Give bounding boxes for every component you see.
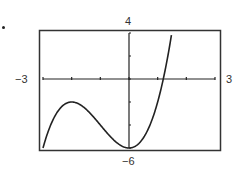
viewing-window-frame [40,31,221,151]
function-curve [43,35,171,148]
function-plot [0,0,244,179]
xmax-label: 3 [226,74,232,85]
axes [43,33,215,148]
ymin-label: −6 [122,156,135,167]
ymax-label: 4 [125,16,131,27]
xmin-label: −3 [15,74,28,85]
